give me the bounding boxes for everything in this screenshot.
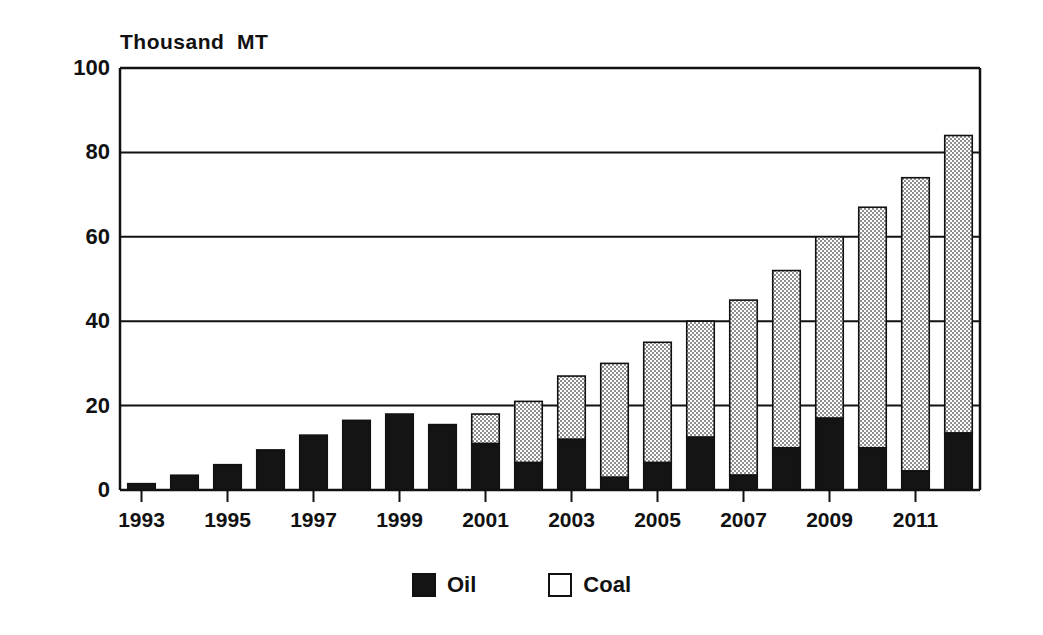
chart-plot-area	[0, 0, 1043, 635]
bar-segment-oil	[472, 444, 500, 490]
bar-segment-coal	[558, 376, 586, 439]
bar-segment-coal	[902, 178, 930, 471]
x-tick-label: 1993	[118, 508, 165, 532]
bar-segment-oil	[257, 450, 285, 490]
bar-series-group	[128, 136, 973, 490]
bar-segment-oil	[429, 425, 457, 490]
x-tick-label: 1997	[290, 508, 337, 532]
legend-item-coal[interactable]: Coal	[548, 572, 631, 598]
x-axis-ticks	[142, 490, 916, 502]
bar-segment-oil	[515, 463, 543, 490]
bar-segment-oil	[386, 414, 414, 490]
bar-segment-coal	[472, 414, 500, 444]
bar-segment-coal	[816, 237, 844, 418]
bar-segment-coal	[859, 207, 887, 448]
plot-frame	[120, 68, 980, 490]
bar-segment-oil	[773, 448, 801, 490]
chart-container: Thousand MT 020406080100 199319951997199…	[0, 0, 1043, 635]
x-tick-label: 1995	[204, 508, 251, 532]
bar-segment-oil	[687, 437, 715, 490]
bar-segment-coal	[730, 300, 758, 475]
x-tick-label: 2009	[806, 508, 853, 532]
bar-segment-oil	[902, 471, 930, 490]
bar-segment-coal	[773, 271, 801, 448]
x-tick-label: 2007	[720, 508, 767, 532]
bar-segment-oil	[214, 465, 242, 490]
x-tick-label: 2001	[462, 508, 509, 532]
y-axis-title: Thousand MT	[120, 30, 268, 54]
x-tick-label: 2005	[634, 508, 681, 532]
chart-legend: Oil Coal	[0, 572, 1043, 598]
y-tick-label: 80	[10, 139, 110, 165]
bar-segment-coal	[945, 136, 973, 434]
bar-segment-oil	[601, 477, 629, 490]
bar-segment-coal	[601, 363, 629, 477]
bar-segment-oil	[730, 475, 758, 490]
x-tick-label: 2011	[893, 508, 939, 532]
bar-segment-coal	[644, 342, 672, 462]
bar-segment-oil	[644, 463, 672, 490]
legend-swatch-coal-icon	[548, 573, 572, 597]
bar-segment-oil	[816, 418, 844, 490]
y-tick-label: 60	[10, 224, 110, 250]
bar-segment-oil	[171, 475, 199, 490]
legend-label-coal: Coal	[583, 572, 631, 598]
y-tick-label: 100	[10, 55, 110, 81]
bar-segment-coal	[687, 321, 715, 437]
bar-segment-oil	[300, 435, 328, 490]
bar-segment-oil	[343, 420, 371, 490]
y-axis-tick-labels: 020406080100	[0, 0, 110, 635]
legend-label-oil: Oil	[447, 572, 476, 598]
bar-segment-oil	[859, 448, 887, 490]
x-tick-label: 2003	[548, 508, 595, 532]
y-tick-label: 0	[10, 477, 110, 503]
legend-item-oil[interactable]: Oil	[412, 572, 476, 598]
y-tick-label: 20	[10, 393, 110, 419]
y-tick-label: 40	[10, 308, 110, 334]
gridlines	[120, 68, 980, 406]
bar-segment-oil	[945, 433, 973, 490]
legend-swatch-oil-icon	[412, 573, 436, 597]
bar-segment-oil	[558, 439, 586, 490]
bar-segment-coal	[515, 401, 543, 462]
x-tick-label: 1999	[376, 508, 423, 532]
